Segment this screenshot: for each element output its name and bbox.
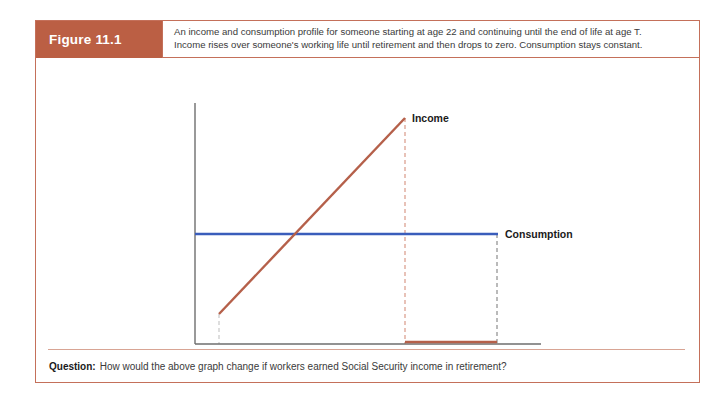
income-rising-line [219,118,405,314]
figure-caption-line-1: An income and consumption profile for so… [174,25,689,38]
figure-header: Figure 11.1 An income and consumption pr… [36,21,699,58]
question-row: Question: How would the above graph chan… [36,350,699,382]
life-cycle-income-consumption-chart: 18 22 65 T Age Income Consumption [36,58,698,349]
figure-caption: An income and consumption profile for so… [162,21,699,58]
consumption-series-label: Consumption [505,228,573,240]
question-text: How would the above graph change if work… [100,361,507,372]
figure-number-badge: Figure 11.1 [36,21,162,58]
figure-caption-line-2: Income rises over someone's working life… [174,38,689,51]
income-series-label: Income [412,112,449,124]
chart-area: 18 22 65 T Age Income Consumption [36,58,699,349]
figure-box: Figure 11.1 An income and consumption pr… [35,20,700,383]
question-label: Question: [49,361,96,372]
